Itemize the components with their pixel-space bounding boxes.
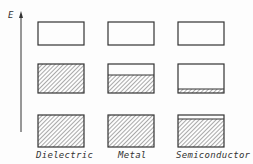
energy-axis — [19, 11, 23, 132]
column-metal — [108, 22, 154, 147]
label-dielectric: Dielectric — [36, 150, 93, 160]
axis-label-e: E — [8, 10, 14, 20]
label-metal: Metal — [118, 150, 147, 160]
column-semiconductor — [178, 22, 224, 147]
band-diagram — [0, 0, 253, 164]
column-dielectric — [38, 22, 84, 147]
upper-band — [178, 22, 224, 45]
lower-band — [108, 115, 154, 147]
lower-band-filled — [178, 119, 224, 147]
lower-band — [38, 115, 84, 147]
middle-band — [38, 64, 84, 93]
upper-band — [108, 22, 154, 45]
label-semiconductor: Semiconductor — [176, 150, 250, 160]
arrow-up-icon — [19, 11, 23, 18]
middle-band-filled — [108, 75, 154, 93]
upper-band — [38, 22, 84, 45]
